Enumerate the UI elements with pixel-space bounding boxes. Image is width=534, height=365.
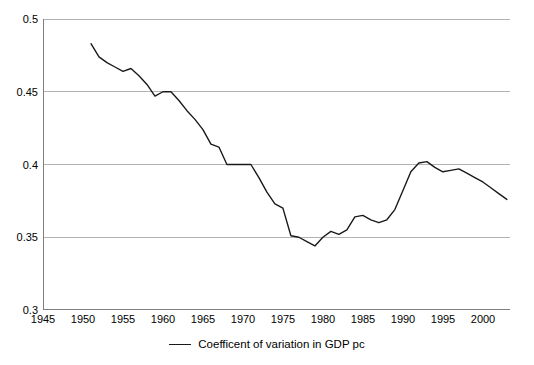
y-axis-label-group: 0.5 0.45 0.4 0.35 0.3: [0, 0, 38, 365]
y-tick-label-0.35: 0.35: [17, 232, 38, 243]
x-tick-label-1975: 1975: [271, 314, 295, 325]
x-tick-label-1960: 1960: [151, 314, 175, 325]
y-tick-label-0.5: 0.5: [23, 14, 38, 25]
plot-area: [43, 19, 510, 310]
x-tick-label-1950: 1950: [71, 314, 95, 325]
series-layer: [43, 19, 510, 310]
x-tick-label-2000: 2000: [471, 314, 495, 325]
x-tick-label-1985: 1985: [351, 314, 375, 325]
x-tick-label-1990: 1990: [391, 314, 415, 325]
y-tick-label-0.4: 0.4: [23, 160, 38, 171]
legend-line-swatch-icon: [169, 344, 191, 345]
chart-container: 0.5 0.45 0.4 0.35 0.3: [0, 0, 534, 365]
x-axis-label-group: 1945 1950 1955 1960 1965 1970 1975 1980 …: [0, 314, 534, 330]
x-tick-label-1945: 1945: [31, 314, 55, 325]
legend-label: Coefficent of variation in GDP pc: [198, 338, 364, 350]
x-tick-label-1995: 1995: [431, 314, 455, 325]
chart-legend: Coefficent of variation in GDP pc: [0, 334, 534, 354]
line-series-coefficient-of-variation: [91, 44, 507, 246]
x-tick-label-1965: 1965: [191, 314, 215, 325]
x-tick-label-1980: 1980: [311, 314, 335, 325]
y-tick-label-0.45: 0.45: [17, 87, 38, 98]
x-tick-label-1955: 1955: [111, 314, 135, 325]
x-tick-label-1970: 1970: [231, 314, 255, 325]
